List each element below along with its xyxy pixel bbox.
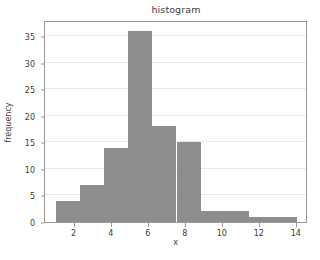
histogram-bar [128,31,152,222]
x-tick-mark [74,223,75,227]
x-axis: 2468101214 [44,223,307,239]
y-axis: 05101520253035 [0,21,44,223]
y-tick-label: 20 [25,112,35,121]
histogram-bar [177,142,201,222]
x-tick-label: 14 [291,229,301,238]
x-tick-label: 8 [182,229,187,238]
y-tick-label: 35 [25,32,35,41]
histogram-bar [80,185,104,222]
plot-area [44,21,307,223]
x-tick-mark [259,223,260,227]
x-tick-mark [222,223,223,227]
histogram-bar [56,201,80,222]
x-tick-mark [296,223,297,227]
x-tick-mark [111,223,112,227]
y-tick-label: 5 [30,192,35,201]
x-tick-mark [148,223,149,227]
x-axis-label: x [44,238,307,247]
y-tick-label: 15 [25,139,35,148]
histogram-bar [104,148,128,222]
histogram-bar [152,126,176,222]
x-tick-mark [185,223,186,227]
histogram-bar [273,217,297,222]
x-tick-label: 6 [145,229,150,238]
histogram-bar [225,211,249,222]
histogram-figure: histogram frequency 05101520253035 24681… [0,0,320,260]
histogram-bars [45,22,306,222]
y-tick-label: 0 [30,219,35,228]
histogram-bar [249,217,273,222]
chart-title: histogram [44,4,308,15]
histogram-bar [201,211,225,222]
y-tick-label: 10 [25,165,35,174]
x-tick-label: 12 [254,229,264,238]
y-tick-label: 25 [25,86,35,95]
x-tick-label: 4 [108,229,113,238]
y-tick-label: 30 [25,59,35,68]
x-tick-label: 2 [71,229,76,238]
x-tick-label: 10 [217,229,227,238]
